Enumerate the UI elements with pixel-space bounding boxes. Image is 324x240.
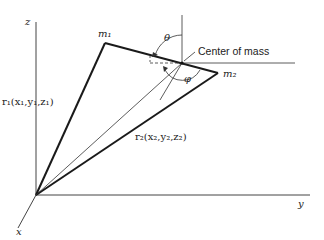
center-of-mass-point (180, 61, 183, 64)
cm-pointer (184, 52, 195, 61)
m2-label: m₂ (223, 68, 237, 79)
y-axis-label: y (298, 198, 304, 209)
x-axis (18, 195, 36, 228)
phi-label: φ (184, 73, 191, 84)
m1-label: m₁ (98, 28, 112, 39)
theta-label: θ (164, 32, 170, 43)
z-axis-label: z (25, 16, 30, 27)
cm-vector (36, 63, 182, 195)
phi-arc (165, 70, 200, 80)
r1-label: r₁(x₁,y₁,z₁) (2, 96, 54, 107)
center-of-mass-label: Center of mass (198, 45, 269, 57)
x-axis-label: x (16, 226, 22, 237)
diagram-canvas (0, 0, 324, 240)
r2-label: r₂(x₂,y₂,z₂) (135, 131, 187, 142)
cm-projection-line (160, 63, 182, 100)
